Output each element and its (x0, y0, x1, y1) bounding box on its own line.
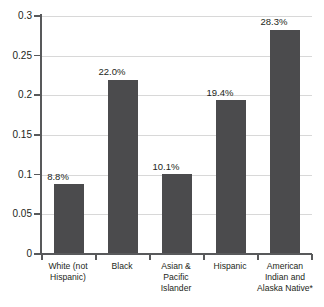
x-label-line: Islander (140, 283, 212, 294)
y-tick-mark-0.05 (34, 213, 41, 215)
y-tick-mark-0.2 (34, 94, 41, 96)
y-tick-label-0.05: 0.05 (13, 209, 32, 219)
plot-area (41, 16, 312, 254)
y-tick-mark-0 (34, 253, 41, 255)
bar-label-white-not-hispanic: 8.8% (39, 172, 77, 182)
bar-label-asian-pacific-islander: 10.1% (147, 162, 185, 172)
x-label-line: Pacific (140, 272, 212, 283)
x-tick-mark-1 (95, 254, 97, 260)
x-label-line: Alaska Native* (246, 283, 324, 294)
y-tick-label-0.1: 0.1 (18, 170, 32, 180)
x-tick-mark-3 (203, 254, 205, 260)
bar-label-hispanic: 19.4% (201, 88, 239, 98)
y-tick-label-0.2: 0.2 (18, 90, 32, 100)
x-tick-mark-5 (311, 254, 313, 260)
bar-hispanic (216, 100, 246, 254)
bar-label-american-indian-alaska-native: 28.3% (255, 17, 293, 27)
bar-label-black: 22.0% (93, 67, 131, 77)
bar-white-not-hispanic (54, 184, 84, 254)
y-tick-label-0.25: 0.25 (13, 51, 32, 61)
y-tick-label-0: 0 (26, 249, 32, 259)
y-tick-mark-0.15 (34, 134, 41, 136)
bar-black (108, 80, 138, 255)
x-label-american-indian-alaska-native: American Indian and Alaska Native* (246, 261, 324, 294)
x-label-line: Indian and (246, 272, 324, 283)
y-tick-label-0.3: 0.3 (18, 11, 32, 21)
x-tick-mark-2 (149, 254, 151, 260)
y-tick-mark-0.3 (34, 15, 41, 17)
x-label-line: American (246, 261, 324, 272)
bar-american-indian-alaska-native (270, 30, 300, 255)
y-tick-label-0.15: 0.15 (13, 130, 32, 140)
x-axis-line (41, 253, 312, 255)
bar-chart: 0.3 0.25 0.2 0.15 0.1 0.05 0 8.8% 22.0% … (0, 0, 324, 307)
x-label-line: Hispanic) (32, 272, 104, 283)
x-tick-mark-0 (41, 254, 43, 260)
bar-asian-pacific-islander (162, 174, 192, 254)
y-tick-mark-0.25 (34, 55, 41, 57)
x-tick-mark-4 (257, 254, 259, 260)
